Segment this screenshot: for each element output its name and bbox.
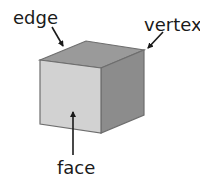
vertex-label: vertex [144,16,200,34]
edge-label: edge [13,9,58,27]
cube-front-face [40,60,101,133]
face-label: face [57,159,95,177]
edge-arrow-icon [52,27,63,46]
cube-diagram: edge vertex face [0,0,200,184]
